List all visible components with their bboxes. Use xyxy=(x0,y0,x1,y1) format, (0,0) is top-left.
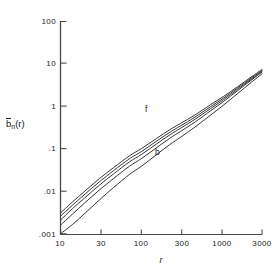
y-axis-title: bn(r) xyxy=(6,118,25,130)
curve-2 xyxy=(61,71,263,217)
x-tick-label-30: 30 xyxy=(96,239,106,248)
x-tick-label-100: 100 xyxy=(134,239,149,248)
curve-label-b: b xyxy=(155,147,160,157)
y-tick-label-100: 100 xyxy=(14,17,56,26)
axis-lines xyxy=(60,21,262,235)
x-tick-label-1000: 1000 xyxy=(212,239,231,248)
x-tick-label-3000: 3000 xyxy=(252,239,271,248)
curve-5-b xyxy=(61,74,263,234)
x-tick-label-300: 300 xyxy=(175,239,190,248)
y-axis-ticks xyxy=(61,22,67,234)
y-tick-label-0.1: .1 xyxy=(14,144,56,153)
y-tick-label-1: 1 xyxy=(14,102,56,111)
x-tick-label-10: 10 xyxy=(55,239,65,248)
y-axis-title-tail: (r) xyxy=(15,118,25,129)
data-curves xyxy=(61,70,263,234)
y-tick-label-0.001: .001 xyxy=(14,230,56,239)
y-tick-label-10: 10 xyxy=(14,59,56,68)
curve-label-f: f xyxy=(145,104,147,114)
y-tick-label-0.01: .01 xyxy=(14,187,56,196)
x-axis-ticks xyxy=(61,230,263,235)
figure-log-log-plot: 100 10 1 .1 .01 .001 10 30 100 300 1000 … xyxy=(0,0,280,278)
curve-4 xyxy=(61,72,263,225)
x-axis-title: r xyxy=(160,255,163,265)
